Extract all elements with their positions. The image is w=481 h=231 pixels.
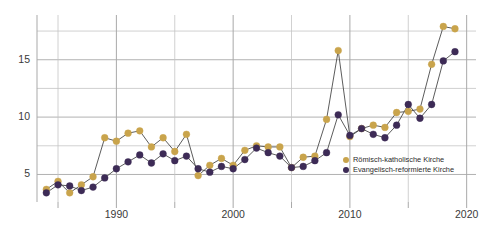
data-point <box>311 157 318 164</box>
data-point <box>288 164 295 171</box>
data-point <box>206 169 213 176</box>
line-chart-plot <box>0 0 481 231</box>
legend-swatch-roemisch-katholisch <box>343 157 349 163</box>
data-point <box>206 162 213 169</box>
chart-container: 51015 1990200020102020 Römisch-katholisc… <box>0 0 481 231</box>
data-point <box>405 108 412 115</box>
data-point <box>66 189 73 196</box>
data-point <box>183 131 190 138</box>
legend-swatch-evangelisch-reformiert <box>343 167 349 173</box>
data-point <box>43 189 50 196</box>
data-point <box>370 131 377 138</box>
legend-label-evangelisch-reformiert: Evangelisch-reformierte Kirche <box>353 165 454 175</box>
x-axis-tick-label: 1990 <box>96 208 136 220</box>
data-point <box>171 157 178 164</box>
data-point <box>393 109 400 116</box>
data-point <box>382 134 389 141</box>
data-point <box>160 134 167 141</box>
data-point <box>101 175 108 182</box>
data-point <box>417 106 424 113</box>
data-point <box>148 144 155 151</box>
data-point <box>55 181 62 188</box>
x-axis-tick-label: 2010 <box>330 208 370 220</box>
legend-item: Römisch-katholische Kirche <box>343 155 454 165</box>
y-axis-tick-label: 5 <box>2 167 30 179</box>
legend-label-roemisch-katholisch: Römisch-katholische Kirche <box>353 155 444 165</box>
data-point <box>382 124 389 131</box>
data-point <box>440 23 447 30</box>
data-point <box>370 122 377 129</box>
data-point <box>417 115 424 122</box>
data-point <box>253 145 260 152</box>
data-point <box>440 57 447 64</box>
data-point <box>136 152 143 159</box>
data-point <box>183 153 190 160</box>
data-point <box>136 127 143 134</box>
data-point <box>241 147 248 154</box>
data-point <box>218 163 225 170</box>
data-point <box>428 61 435 68</box>
data-point <box>300 154 307 161</box>
x-axis-tick-label: 2020 <box>447 208 481 220</box>
data-point <box>452 25 459 32</box>
data-point <box>347 132 354 139</box>
data-point <box>113 165 120 172</box>
data-point <box>358 125 365 132</box>
data-point <box>148 160 155 167</box>
data-point <box>323 116 330 123</box>
data-point <box>428 101 435 108</box>
chart-legend: Römisch-katholische Kirche Evangelisch-r… <box>343 155 454 175</box>
data-point <box>171 148 178 155</box>
y-axis-tick-label: 10 <box>2 110 30 122</box>
data-point <box>335 47 342 54</box>
data-point <box>101 134 108 141</box>
data-point <box>452 48 459 55</box>
legend-item: Evangelisch-reformierte Kirche <box>343 165 454 175</box>
data-point <box>125 130 132 137</box>
y-axis-tick-label: 15 <box>2 53 30 65</box>
data-point <box>160 150 167 157</box>
data-point <box>335 111 342 118</box>
data-point <box>66 183 73 190</box>
data-point <box>265 149 272 156</box>
data-point <box>276 153 283 160</box>
data-point <box>276 144 283 151</box>
data-point <box>90 173 97 180</box>
data-point <box>195 165 202 172</box>
data-point <box>393 122 400 129</box>
data-point <box>195 172 202 179</box>
data-point <box>218 155 225 162</box>
data-point <box>323 149 330 156</box>
data-point <box>405 101 412 108</box>
x-axis-tick-label: 2000 <box>213 208 253 220</box>
data-point <box>230 165 237 172</box>
data-point <box>78 187 85 194</box>
data-point <box>300 163 307 170</box>
data-point <box>125 158 132 165</box>
data-point <box>241 156 248 163</box>
data-point <box>90 184 97 191</box>
data-point <box>113 138 120 145</box>
